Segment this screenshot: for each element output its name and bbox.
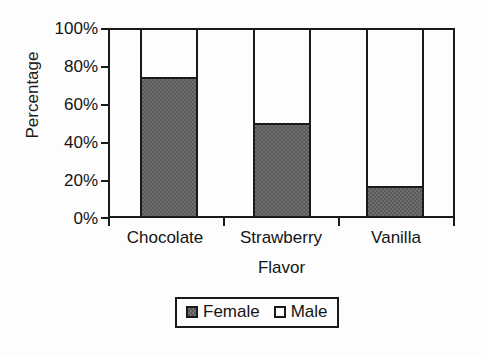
- stacked-bar-chart: Percentage 100% 80% 60% 40% 20% 0% Choco…: [0, 0, 486, 357]
- y-tick-mark-40: [101, 142, 108, 144]
- y-tick-mark-80: [101, 66, 108, 68]
- x-category-label-vanilla: Vanilla: [331, 228, 461, 248]
- bar-vanilla: [366, 30, 424, 216]
- y-tick-label-40: 40%: [32, 133, 98, 153]
- x-tick-mark-2: [338, 218, 340, 226]
- y-axis-tick-labels: 100% 80% 60% 40% 20% 0%: [32, 0, 98, 357]
- x-axis-title: Flavor: [108, 258, 455, 278]
- bar-strawberry: [253, 30, 311, 216]
- x-tick-mark-right: [453, 218, 455, 226]
- empty-square-icon: [274, 306, 286, 318]
- bar-segment-female-strawberry: [255, 123, 309, 216]
- y-tick-mark-100: [101, 28, 108, 30]
- legend-item-female: Female: [186, 302, 260, 322]
- x-tick-mark-left: [108, 218, 110, 226]
- legend-item-male: Male: [274, 302, 328, 322]
- bar-segment-female-chocolate: [142, 77, 196, 217]
- filled-square-icon: [186, 306, 198, 318]
- chart-legend: Female Male: [175, 297, 339, 328]
- y-tick-label-80: 80%: [32, 57, 98, 77]
- y-tick-label-0: 0%: [32, 209, 98, 229]
- legend-label-female: Female: [203, 302, 260, 322]
- x-tick-mark-1: [223, 218, 225, 226]
- bar-chocolate: [140, 30, 198, 216]
- y-tick-mark-20: [101, 180, 108, 182]
- plot-area: [108, 28, 455, 218]
- bar-segment-female-vanilla: [368, 186, 422, 216]
- y-tick-label-20: 20%: [32, 171, 98, 191]
- y-tick-label-60: 60%: [32, 95, 98, 115]
- x-category-label-chocolate: Chocolate: [100, 228, 230, 248]
- y-tick-mark-0: [101, 217, 108, 219]
- y-tick-mark-60: [101, 104, 108, 106]
- legend-label-male: Male: [291, 302, 328, 322]
- x-category-label-strawberry: Strawberry: [216, 228, 346, 248]
- y-tick-label-100: 100%: [32, 19, 98, 39]
